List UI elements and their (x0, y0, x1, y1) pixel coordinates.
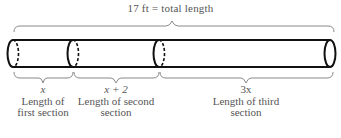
section-3-desc-line2: section (196, 107, 296, 119)
pipe-joint-2 (154, 40, 165, 67)
section-3-expression: 3x (196, 84, 296, 96)
pipe-joint-1 (68, 40, 79, 67)
section-3-label: 3x Length of third section (196, 84, 296, 119)
pipe-right-end (325, 40, 336, 67)
total-length-brace (14, 21, 334, 32)
section-2-expression: x + 2 (71, 84, 161, 96)
section-3-brace (160, 72, 333, 83)
section-2-label: x + 2 Length of second section (71, 84, 161, 119)
section-2-desc-line2: section (71, 107, 161, 119)
pipe (8, 40, 336, 67)
section-1-brace (14, 72, 73, 83)
pipe-left-end (8, 40, 19, 67)
section-2-brace (74, 72, 159, 83)
